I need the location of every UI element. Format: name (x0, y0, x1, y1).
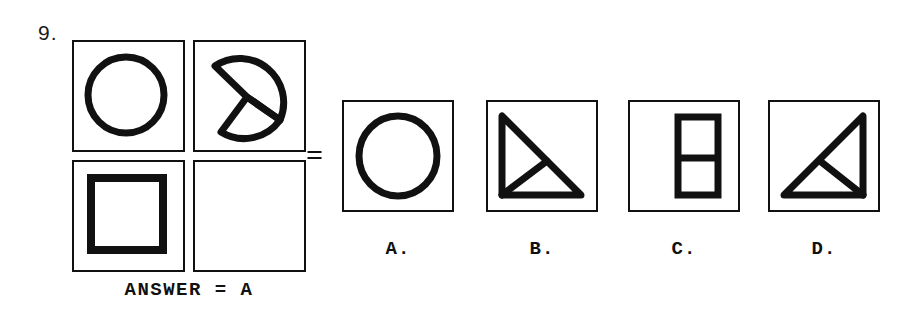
answer-options: A. B. (340, 100, 910, 275)
matrix-cell-top-right (193, 40, 306, 152)
option-a-figure-box[interactable] (342, 100, 454, 212)
matrix-cell-top-left (72, 40, 185, 152)
option-c-label: C. (628, 238, 740, 260)
option-d-label: D. (768, 238, 880, 260)
square-icon (74, 162, 183, 270)
split-right-triangle-icon (488, 102, 596, 210)
option-b[interactable]: B. (486, 100, 598, 260)
option-c-figure-box[interactable] (628, 100, 740, 212)
circle-icon (344, 102, 452, 210)
split-semicircle-icon (195, 42, 304, 150)
question-number: 9. (38, 22, 58, 43)
option-b-label: B. (486, 238, 598, 260)
option-c[interactable]: C. (628, 100, 740, 260)
circle-icon (74, 42, 183, 150)
equals-sign: = (306, 140, 323, 170)
split-right-triangle-icon (770, 102, 878, 210)
option-b-figure-box[interactable] (486, 100, 598, 212)
option-d-figure-box[interactable] (768, 100, 880, 212)
option-d[interactable]: D. (768, 100, 880, 260)
matrix-cell-bottom-left (72, 160, 185, 272)
analogy-matrix (72, 40, 306, 272)
option-a-label: A. (342, 238, 454, 260)
split-rectangle-icon (630, 102, 738, 210)
option-a[interactable]: A. (342, 100, 454, 260)
answer-caption: ANSWER = A (72, 279, 306, 301)
matrix-cell-bottom-right-blank (193, 160, 306, 272)
